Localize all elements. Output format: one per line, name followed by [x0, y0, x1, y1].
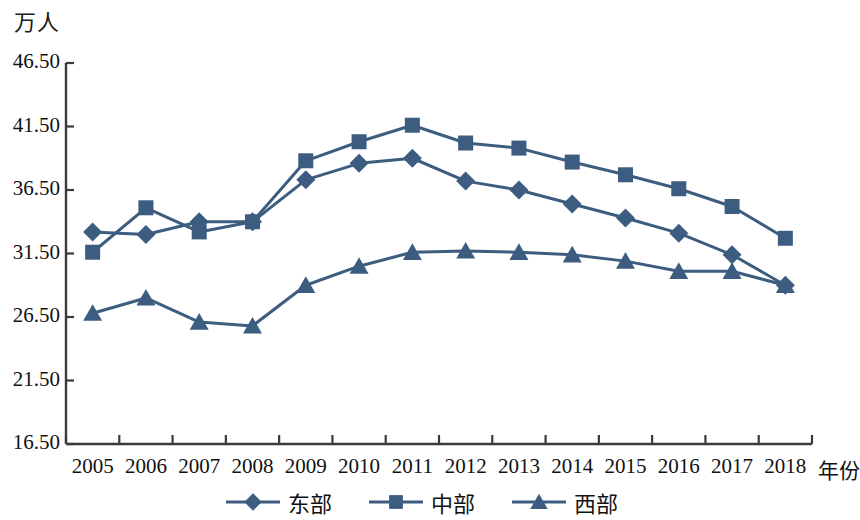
legend-item-东部[interactable]: 东部 [224, 486, 333, 518]
x-axis-tick-label: 2015 [599, 454, 652, 479]
data-point-diamond [83, 222, 102, 241]
data-point-diamond [244, 493, 261, 510]
data-point-triangle [296, 276, 315, 293]
x-axis-title: 年份 [818, 454, 860, 484]
legend-marker-triangle [510, 489, 568, 515]
data-point-diamond [403, 149, 422, 168]
data-point-diamond [723, 245, 742, 264]
legend-label: 中部 [431, 486, 476, 518]
x-axis-tick-label: 2011 [386, 454, 439, 479]
legend-item-西部[interactable]: 西部 [510, 486, 619, 518]
series-layer [83, 118, 795, 334]
legend-item-中部[interactable]: 中部 [367, 486, 476, 518]
axis-layer [66, 63, 812, 444]
data-point-square [671, 181, 686, 196]
data-point-square [192, 224, 207, 239]
series-line [93, 251, 786, 326]
x-axis-tick-label: 2013 [492, 454, 545, 479]
x-axis-tick-label: 2012 [439, 454, 492, 479]
data-point-square [138, 200, 153, 215]
data-point-square [245, 214, 260, 229]
legend-label: 西部 [574, 486, 619, 518]
data-point-square [565, 155, 580, 170]
legend-label: 东部 [288, 486, 333, 518]
x-axis-tick-label: 2006 [119, 454, 172, 479]
legend-marker-diamond [224, 489, 282, 515]
data-point-diamond [350, 154, 369, 173]
x-axis-tick-label: 2014 [546, 454, 599, 479]
data-point-diamond [563, 194, 582, 213]
data-point-triangle [136, 289, 155, 306]
data-point-square [298, 153, 313, 168]
data-point-diamond [456, 172, 475, 191]
data-point-square [458, 136, 473, 151]
x-axis-tick-label: 2010 [332, 454, 385, 479]
x-axis-tick-label: 2009 [279, 454, 332, 479]
y-axis-tick-label: 16.50 [2, 430, 60, 455]
x-axis-tick-label: 2018 [759, 454, 812, 479]
chart-legend: 东部中部西部 [0, 486, 842, 518]
data-point-diamond [136, 225, 155, 244]
y-axis-tick-label: 41.50 [2, 113, 60, 138]
series-markers-西部 [83, 242, 795, 334]
x-axis-tick-label: 2005 [66, 454, 119, 479]
data-point-diamond [616, 208, 635, 227]
data-point-square [725, 199, 740, 214]
x-axis-tick-label: 2017 [705, 454, 758, 479]
data-point-square [85, 245, 100, 260]
data-point-square [352, 134, 367, 149]
data-point-diamond [509, 181, 528, 200]
data-point-square [389, 495, 403, 509]
y-axis-tick-label: 36.50 [2, 176, 60, 201]
x-axis-tick-label: 2008 [226, 454, 279, 479]
data-point-square [405, 118, 420, 133]
data-point-square [511, 141, 526, 156]
data-point-square [778, 231, 793, 246]
legend-marker-square [367, 489, 425, 515]
y-axis-tick-label: 26.50 [2, 303, 60, 328]
y-axis-tick-label: 21.50 [2, 367, 60, 392]
data-point-square [618, 167, 633, 182]
y-axis-tick-label: 31.50 [2, 240, 60, 265]
x-axis-tick-label: 2016 [652, 454, 705, 479]
data-point-diamond [669, 224, 688, 243]
series-西部 [93, 251, 786, 326]
series-markers-中部 [85, 118, 793, 260]
x-axis-tick-label: 2007 [173, 454, 226, 479]
y-axis-tick-label: 46.50 [2, 49, 60, 74]
